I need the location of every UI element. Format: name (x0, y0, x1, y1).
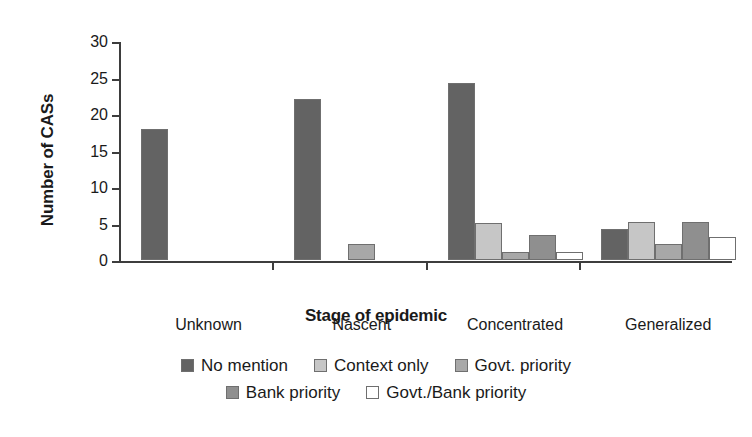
y-tick-mark (112, 42, 119, 44)
legend-row-1: No mentionContext onlyGovt. priority (0, 352, 752, 379)
legend-swatch-icon (314, 359, 327, 372)
y-axis-line (119, 42, 121, 263)
y-tick-label: 20 (90, 106, 108, 124)
plot-area: 051015202530 UnknownNascentConcentratedG… (119, 42, 732, 262)
legend-label: Bank priority (246, 383, 340, 403)
x-tick-mark (272, 262, 274, 270)
bar-concentrated-bank-priority (529, 235, 556, 260)
y-tick-mark (112, 115, 119, 117)
y-tick-label: 30 (90, 33, 108, 51)
legend-swatch-icon (181, 359, 194, 372)
y-axis-title: Number of CASs (38, 50, 58, 270)
bar-concentrated-no-mention (448, 83, 475, 260)
bar-generalized-context-only (628, 222, 655, 260)
bar-concentrated-govt-priority (502, 252, 529, 260)
legend-item-bank-priority[interactable]: Bank priority (226, 383, 340, 403)
bar-generalized-no-mention (601, 229, 628, 260)
y-tick-mark (112, 152, 119, 154)
legend-swatch-icon (226, 386, 239, 399)
y-tick-mark (112, 188, 119, 190)
legend-item-no-mention[interactable]: No mention (181, 356, 288, 376)
legend-swatch-icon (366, 386, 379, 399)
legend-label: Govt./Bank priority (386, 383, 526, 403)
x-tick-mark (426, 262, 428, 270)
x-tick-mark (579, 262, 581, 270)
legend-label: Context only (334, 356, 429, 376)
legend-item-govt-priority[interactable]: Govt. priority (455, 356, 571, 376)
bar-generalized-bank-priority (682, 222, 709, 260)
bar-concentrated-context-only (475, 223, 502, 260)
bar-generalized-govt-priority (655, 244, 682, 260)
y-tick-mark (112, 79, 119, 81)
legend-swatch-icon (455, 359, 468, 372)
y-tick-label: 25 (90, 70, 108, 88)
y-tick-label: 0 (99, 252, 108, 270)
bar-unknown-no-mention (141, 129, 168, 260)
bar-chart-figure: Number of CASs 051015202530 UnknownNasce… (0, 0, 752, 437)
legend-item-context-only[interactable]: Context only (314, 356, 429, 376)
y-tick-label: 10 (90, 179, 108, 197)
legend-row-2: Bank priorityGovt./Bank priority (0, 379, 752, 406)
x-axis-title: Stage of epidemic (0, 306, 752, 326)
y-tick-label: 15 (90, 143, 108, 161)
y-tick-label: 5 (99, 216, 108, 234)
bar-nascent-no-mention (294, 99, 321, 260)
legend-item-govt-bank-priority[interactable]: Govt./Bank priority (366, 383, 526, 403)
bar-concentrated-govt-bank-priority (556, 252, 583, 260)
y-tick-mark (112, 225, 119, 227)
bar-generalized-govt-bank-priority (709, 237, 736, 260)
legend-label: No mention (201, 356, 288, 376)
legend-label: Govt. priority (475, 356, 571, 376)
bar-nascent-govt-priority (348, 244, 375, 260)
chart-legend: No mentionContext onlyGovt. priorityBank… (0, 352, 752, 406)
y-tick-mark (112, 261, 119, 263)
